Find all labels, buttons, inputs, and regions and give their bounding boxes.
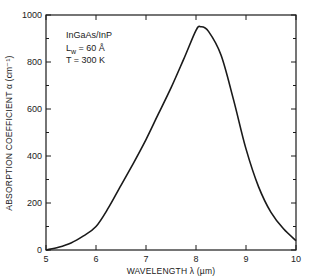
x-axis-title: WAVELENGTH λ (µm) [127, 266, 216, 276]
annotation-material: InGaAs/InP [66, 30, 112, 40]
x-tick-label: 9 [243, 254, 248, 264]
y-tick-label: 400 [27, 151, 42, 161]
x-tick-label: 10 [291, 254, 301, 264]
x-tick-label: 5 [43, 254, 48, 264]
y-tick-labels: 02004006008001000 [22, 10, 42, 255]
y-tick-label: 600 [27, 104, 42, 114]
y-tick-label: 0 [37, 245, 42, 255]
x-tick-labels: 5678910 [43, 254, 301, 264]
annotation-well-width: Lw = 60 Å [66, 43, 105, 55]
y-tick-label: 800 [27, 57, 42, 67]
x-tick-label: 6 [93, 254, 98, 264]
absorption-chart: 5678910 02004006008001000 WAVELENGTH λ (… [0, 0, 309, 279]
y-tick-label: 1000 [22, 10, 42, 20]
y-axis-title: ABSORPTION COEFFICIENT α (cm⁻¹) [4, 55, 14, 210]
x-tick-label: 8 [193, 254, 198, 264]
x-tick-label: 7 [143, 254, 148, 264]
annotation-temperature: T = 300 K [66, 55, 105, 65]
y-tick-label: 200 [27, 198, 42, 208]
annotation-block: InGaAs/InP Lw = 60 Å T = 300 K [66, 30, 112, 65]
